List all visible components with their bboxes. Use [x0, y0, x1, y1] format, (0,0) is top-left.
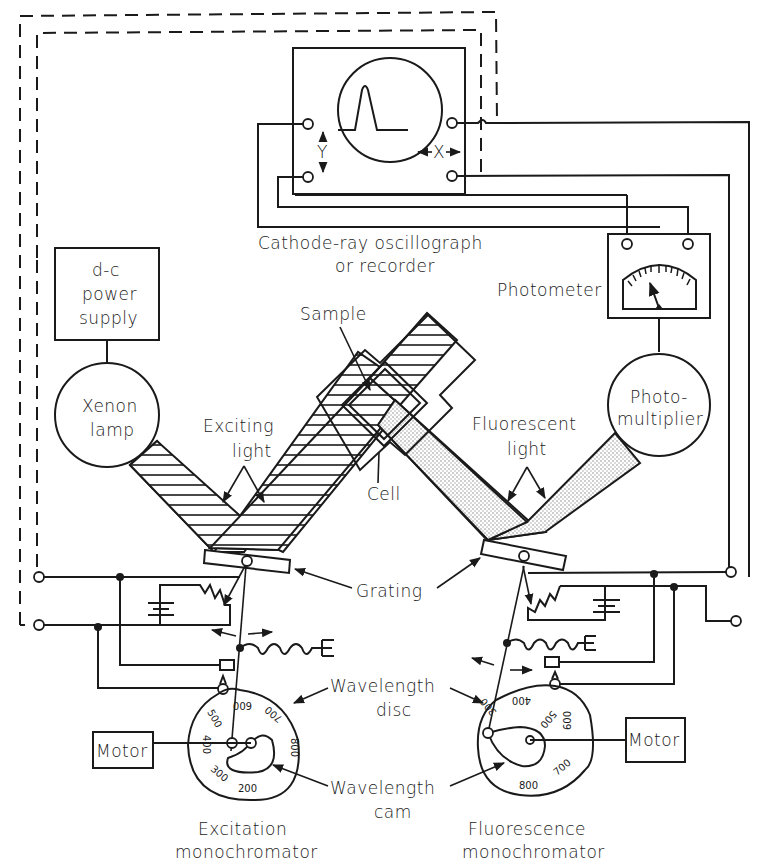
y-axis-label: Y [317, 142, 328, 162]
fluorescent-light-label-2: light [507, 439, 547, 459]
x-terminal-bottom [447, 171, 457, 181]
fluorescence-grating [481, 540, 566, 570]
flu-scale-500: 500 [538, 709, 559, 731]
wavelength-disc-label: Wavelength [330, 676, 435, 696]
fluorescence-wavelength-disc: Motor 300 400 500 600 700 800 [478, 685, 685, 795]
exc-scale-500: 500 [205, 708, 224, 730]
photometer-label: Photometer [497, 280, 602, 300]
sample-label: Sample [300, 304, 367, 324]
y-terminal-top [303, 119, 313, 129]
flu-scale-700: 700 [551, 757, 573, 778]
xenon-lamp: Xenon lamp [55, 363, 159, 467]
fluorescent-light-path: Fluorescent light [378, 400, 640, 540]
excitation-wavelength-disc: Motor 600 700 800 500 400 300 200 [93, 689, 300, 800]
x-terminal-top [447, 118, 457, 128]
power-supply-label-3: supply [79, 308, 138, 328]
flu-scale-800: 800 [519, 780, 538, 791]
exc-scale-400: 400 [201, 735, 212, 754]
grating-label-group: Grating [295, 558, 480, 601]
grating-label: Grating [356, 581, 422, 601]
photometer: Photometer [497, 234, 710, 352]
exc-scale-600: 600 [233, 700, 252, 711]
fluorescent-light-label: Fluorescent [472, 414, 576, 434]
flu-scale-400: 400 [512, 695, 531, 706]
oscillograph: Y X Cathode-ray oscillograph or recorder [258, 48, 483, 276]
power-supply: d-c power supply [55, 248, 159, 365]
excitation-monochromator-label: Excitation [198, 819, 287, 839]
oscillograph-label-2: or recorder [335, 256, 435, 276]
fluorescence-control-circuit [472, 566, 741, 733]
exc-scale-200: 200 [238, 783, 257, 794]
motor-right-label: Motor [628, 730, 680, 750]
photomultiplier-label-2: multiplier [617, 409, 703, 429]
flu-scale-600: 600 [562, 711, 573, 730]
wavelength-cam-label: Wavelength [330, 778, 435, 798]
power-supply-label-1: d-c [92, 260, 120, 280]
motor-left-label: Motor [96, 741, 148, 761]
wavelength-disc-label-2: disc [376, 700, 412, 720]
photomultiplier: Photo- multiplier [608, 354, 710, 456]
fluorescence-monochromator-label: Fluorescence [468, 819, 586, 839]
exc-scale-700: 700 [263, 704, 285, 725]
y-terminal-bottom [303, 172, 313, 182]
wavelength-cam-label-2: cam [374, 802, 412, 822]
cell-label: Cell [367, 484, 401, 504]
excitation-grating [204, 550, 290, 573]
power-supply-label-2: power [82, 284, 137, 304]
exciting-light-label-2: light [232, 441, 272, 461]
xenon-lamp-label-2: lamp [90, 420, 135, 440]
excitation-monochromator-label-2: monochromator [175, 842, 318, 862]
fluorescence-monochromator-label-2: monochromator [462, 842, 605, 862]
spectrofluorometer-diagram: Y X Cathode-ray oscillograph or recorder [0, 0, 765, 865]
photomultiplier-label: Photo- [630, 387, 688, 407]
excitation-control-circuit [34, 566, 334, 751]
xenon-lamp-label: Xenon [82, 396, 138, 416]
exciting-light-label: Exciting [203, 416, 274, 436]
exc-scale-800: 800 [289, 738, 300, 757]
oscillograph-label: Cathode-ray oscillograph [258, 233, 483, 253]
x-axis-label: X [433, 142, 445, 162]
